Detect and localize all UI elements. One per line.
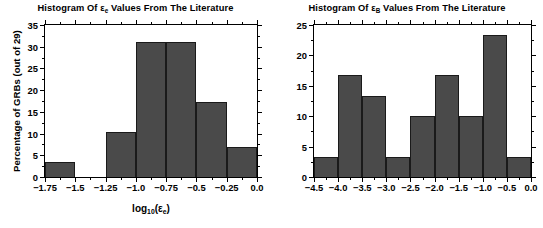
- x-title-base: 10: [147, 208, 155, 215]
- y-axis-minor-tick: [311, 162, 314, 163]
- histogram-bar: [314, 157, 338, 177]
- x-axis-tick-label: −0.25: [215, 182, 239, 193]
- x-axis-tick: [314, 20, 315, 25]
- x-axis-minor-tick: [495, 22, 496, 25]
- x-axis-minor-tick: [471, 22, 472, 25]
- y-axis-minor-tick: [531, 71, 534, 72]
- x-axis-minor-tick: [398, 177, 399, 180]
- histogram-bar: [45, 162, 75, 177]
- x-axis-tick: [507, 20, 508, 25]
- y-axis-tick-label: 15: [297, 80, 307, 91]
- x-axis-minor-tick: [350, 177, 351, 180]
- y-axis-tick-label: 30: [28, 41, 38, 52]
- y-axis-tick: [257, 47, 262, 48]
- x-axis-minor-tick: [60, 22, 61, 25]
- x-axis-minor-tick: [374, 177, 375, 180]
- x-axis-tick: [410, 20, 411, 25]
- histogram-bar: [410, 116, 434, 177]
- x-axis-tick-label: −1.0: [474, 182, 493, 193]
- y-axis-minor-tick: [311, 101, 314, 102]
- x-axis-minor-tick: [90, 22, 91, 25]
- y-axis-minor-tick: [311, 131, 314, 132]
- title-text-pre: Histogram Of: [37, 3, 100, 13]
- y-axis-tick-label: 20: [28, 85, 38, 96]
- y-axis-tick-label: 20: [297, 50, 307, 61]
- y-axis-tick: [309, 147, 314, 148]
- x-axis-minor-tick: [398, 22, 399, 25]
- x-axis-tick-label: −1.5: [66, 182, 85, 193]
- y-axis-tick: [40, 112, 45, 113]
- x-axis-tick-label: −0.5: [187, 182, 206, 193]
- title-text-post: Values From The Literature: [108, 3, 233, 13]
- histogram-panel-epsilon-e: Histogram Of εe Values From The Literatu…: [0, 0, 271, 228]
- x-axis-tick: [459, 20, 460, 25]
- x-title-close: ): [167, 203, 170, 214]
- x-axis-minor-tick: [212, 22, 213, 25]
- y-axis-tick: [40, 155, 45, 156]
- x-axis-minor-tick: [495, 177, 496, 180]
- histogram-bar: [338, 75, 362, 177]
- x-axis-tick-label: −4.0: [329, 182, 348, 193]
- y-axis-tick: [257, 90, 262, 91]
- title-text-pre: Histogram Of: [308, 3, 371, 13]
- y-axis-minor-tick: [311, 71, 314, 72]
- y-axis-tick-label: 0: [302, 172, 307, 183]
- x-axis-minor-tick: [242, 22, 243, 25]
- x-title-epsilon-sub: e: [163, 208, 167, 215]
- x-axis-minor-tick: [121, 22, 122, 25]
- x-axis-minor-tick: [326, 22, 327, 25]
- y-axis-tick: [257, 68, 262, 69]
- x-axis-minor-tick: [151, 22, 152, 25]
- y-axis-minor-tick: [257, 101, 260, 102]
- x-axis-tick: [435, 20, 436, 25]
- x-axis-tick-label: −2.5: [401, 182, 420, 193]
- y-axis-minor-tick: [42, 36, 45, 37]
- x-axis-tick: [338, 20, 339, 25]
- y-axis-tick-label: 10: [28, 128, 38, 139]
- y-axis-minor-tick: [42, 144, 45, 145]
- x-axis-tick-label: −1.75: [33, 182, 57, 193]
- x-axis-tick: [166, 20, 167, 25]
- y-axis-tick: [309, 86, 314, 87]
- x-axis-minor-tick: [121, 177, 122, 180]
- x-axis-minor-tick: [447, 22, 448, 25]
- x-axis-tick-label: 0.0: [250, 182, 263, 193]
- x-axis-tick: [196, 20, 197, 25]
- x-axis-minor-tick: [519, 177, 520, 180]
- y-axis-minor-tick: [257, 166, 260, 167]
- y-axis-minor-tick: [257, 79, 260, 80]
- x-axis-minor-tick: [423, 22, 424, 25]
- y-axis-tick: [309, 116, 314, 117]
- histogram-bar: [459, 116, 483, 177]
- figure-root: Histogram Of εe Values From The Literatu…: [0, 0, 543, 228]
- x-axis-minor-tick: [326, 177, 327, 180]
- y-axis-tick: [531, 55, 536, 56]
- y-axis-tick: [531, 147, 536, 148]
- x-axis-tick-label: −0.75: [154, 182, 178, 193]
- x-axis-minor-tick: [242, 177, 243, 180]
- y-axis-tick-label: 0: [33, 172, 38, 183]
- y-axis-minor-tick: [257, 123, 260, 124]
- y-axis-tick-label: 10: [297, 111, 307, 122]
- y-axis-minor-tick: [531, 40, 534, 41]
- y-axis-tick: [40, 47, 45, 48]
- x-axis-tick-label: −1.25: [94, 182, 118, 193]
- y-axis-tick-label: 5: [33, 150, 38, 161]
- x-axis-minor-tick: [151, 177, 152, 180]
- histogram-bar: [507, 157, 531, 177]
- y-title-n: 29: [11, 33, 22, 44]
- y-axis-minor-tick: [311, 40, 314, 41]
- x-axis-tick-label: −0.5: [498, 182, 517, 193]
- y-axis-tick: [257, 25, 262, 26]
- histogram-bar: [362, 96, 386, 177]
- plot-area-left: 05101520253035−1.75−1.5−1.25−1.0−0.75−0.…: [44, 24, 258, 178]
- y-axis-minor-tick: [257, 58, 260, 59]
- epsilon-subscript: e: [105, 7, 109, 14]
- x-axis-tick-label: 0.0: [524, 182, 537, 193]
- histogram-panel-epsilon-B: Histogram Of εB Values From The Literatu…: [271, 0, 543, 228]
- x-axis-minor-tick: [447, 177, 448, 180]
- x-axis-tick: [227, 20, 228, 25]
- x-axis-minor-tick: [471, 177, 472, 180]
- histogram-bar: [483, 35, 507, 177]
- x-axis-tick: [362, 20, 363, 25]
